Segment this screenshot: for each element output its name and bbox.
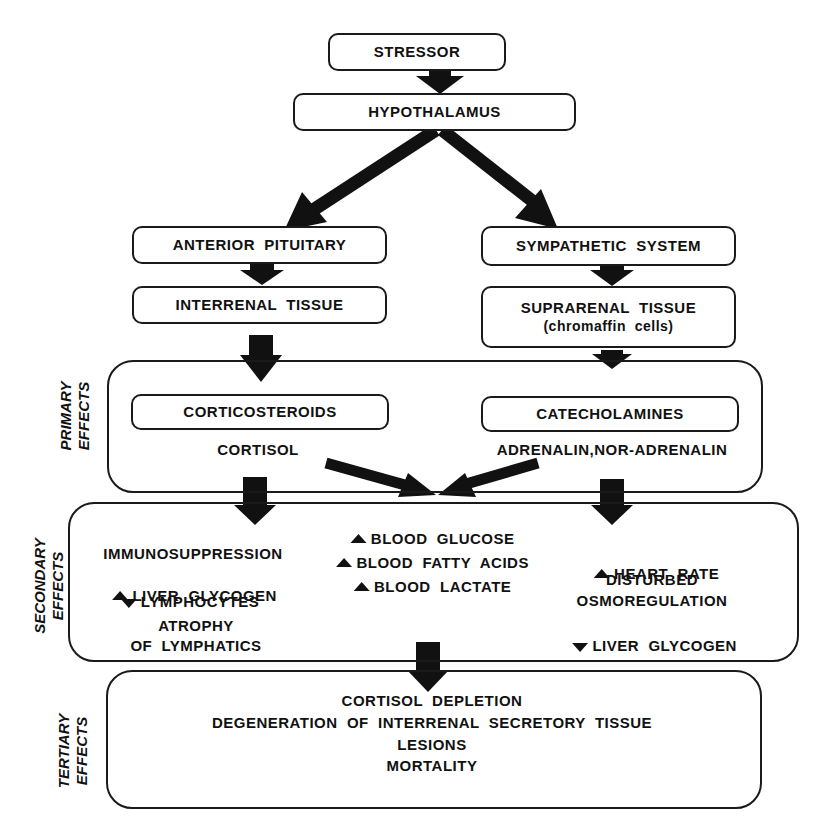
secondary-label-line2: EFFECTS [49, 511, 67, 661]
up-arrowhead-icon [354, 582, 370, 591]
chromaffin-cells-label: (chromaffin cells) [543, 317, 673, 335]
primary-label-line2: EFFECTS [75, 351, 93, 481]
hypothalamus-box: HYPOTHALAMUS [293, 93, 576, 131]
osmoregulation-label: OSMOREGULATION [577, 592, 728, 610]
down-arrowhead-icon [572, 643, 588, 652]
catecholamines-label: CATECHOLAMINES [536, 405, 684, 423]
corticosteroids-box: CORTICOSTEROIDS [131, 394, 389, 430]
primary-label-line1: PRIMARY [57, 351, 75, 481]
degeneration-label: DEGENERATION OF INTERRENAL SECRETORY TIS… [212, 714, 652, 732]
stressor-label: STRESSOR [374, 43, 461, 61]
arrow-stressor-to-hypothalamus [416, 70, 464, 94]
interrenal-tissue-label: INTERRENAL TISSUE [176, 296, 344, 314]
sympathetic-system-label: SYMPATHETIC SYSTEM [516, 237, 701, 255]
atrophy-label: ATROPHY [158, 617, 234, 635]
tertiary-label-line2: EFFECTS [73, 686, 91, 816]
arrow-pituitary-to-interrenal [240, 264, 284, 285]
blood-lactate-label: BLOOD LACTATE [374, 578, 511, 595]
blood-lactate-increase-item: BLOOD LACTATE [345, 560, 512, 596]
arrow-sympathetic-to-suprarenal [590, 264, 634, 286]
anterior-pituitary-box: ANTERIOR PITUITARY [132, 226, 387, 264]
corticosteroids-label: CORTICOSTEROIDS [183, 403, 336, 421]
adrenalin-label: ADRENALIN,NOR-ADRENALIN [497, 441, 728, 459]
sympathetic-system-box: SYMPATHETIC SYSTEM [481, 226, 736, 266]
mortality-label: MORTALITY [387, 757, 478, 775]
hypothalamus-label: HYPOTHALAMUS [368, 103, 501, 121]
down-arrowhead-icon [121, 599, 137, 608]
of-lymphatics-label: OF LYMPHATICS [130, 637, 261, 655]
lymphocytes-decrease-item: LYMPHOCYTES [121, 593, 259, 611]
cortisol-label: CORTISOL [217, 441, 299, 459]
tertiary-label-line1: TERTIARY [55, 686, 73, 816]
arrow-hypothalamus-to-sympathetic [442, 130, 558, 229]
suprarenal-tissue-box: SUPRARENAL TISSUE (chromaffin cells) [481, 286, 736, 348]
lesions-label: LESIONS [397, 736, 466, 754]
secondary-effects-label: SECONDARY EFFECTS [31, 511, 67, 661]
liver-glycogen-decrease-label: LIVER GLYCOGEN [592, 637, 736, 654]
primary-effects-label: PRIMARY EFFECTS [57, 351, 93, 481]
tertiary-effects-label: TERTIARY EFFECTS [55, 686, 91, 816]
lymphocytes-decrease-label: LYMPHOCYTES [141, 593, 259, 610]
anterior-pituitary-label: ANTERIOR PITUITARY [173, 236, 347, 254]
immunosuppression-label: IMMUNOSUPPRESSION [103, 545, 282, 563]
interrenal-tissue-box: INTERRENAL TISSUE [132, 286, 387, 324]
cortisol-depletion-label: CORTISOL DEPLETION [342, 692, 523, 710]
secondary-label-line1: SECONDARY [31, 511, 49, 661]
catecholamines-box: CATECHOLAMINES [481, 396, 739, 432]
stressor-box: STRESSOR [328, 33, 506, 71]
suprarenal-tissue-label: SUPRARENAL TISSUE [521, 299, 696, 317]
disturbed-label: DISTURBED [606, 571, 698, 589]
liver-glycogen-decrease-item: LIVER GLYCOGEN [563, 619, 737, 655]
arrow-hypothalamus-to-pituitary [284, 130, 436, 231]
